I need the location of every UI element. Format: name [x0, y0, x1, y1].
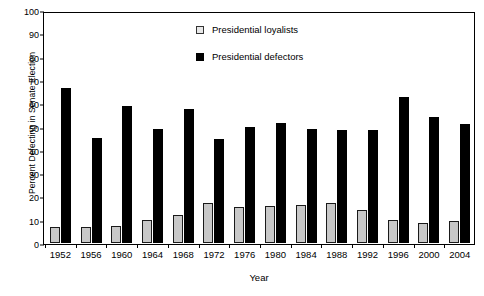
- bar-group: 1968: [168, 12, 199, 243]
- bar-loyalist: [142, 220, 152, 243]
- x-tick-mark: [291, 244, 292, 248]
- bar-group: 1996: [383, 12, 414, 243]
- x-tick-mark: [199, 244, 200, 248]
- y-tick-mark: [40, 81, 44, 82]
- y-tick-mark: [40, 12, 44, 13]
- y-tick-mark: [40, 175, 44, 176]
- bar-group: 1964: [137, 12, 168, 243]
- x-tick-mark: [321, 244, 322, 248]
- x-tick-mark: [444, 244, 445, 248]
- bar-group: 2000: [414, 12, 445, 243]
- y-tick-mark: [40, 35, 44, 36]
- x-tick-label: 1996: [388, 249, 409, 260]
- bar-group: 1992: [352, 12, 383, 243]
- bar-defector: [92, 138, 102, 243]
- y-tick-mark: [40, 245, 44, 246]
- x-tick-mark: [352, 244, 353, 248]
- y-tick-mark: [40, 198, 44, 199]
- bar-defector: [276, 123, 286, 243]
- bar-group: 1988: [321, 12, 352, 243]
- bar-defector: [368, 130, 378, 243]
- y-tick-mark: [40, 58, 44, 59]
- x-tick-mark: [414, 244, 415, 248]
- bar-defector: [460, 124, 470, 243]
- bar-group: 2004: [444, 12, 475, 243]
- x-tick-label: 1960: [111, 249, 132, 260]
- bar-loyalist: [111, 226, 121, 243]
- x-tick-label: 1968: [173, 249, 194, 260]
- bar-defector: [153, 129, 163, 243]
- y-tick-mark: [40, 151, 44, 152]
- bar-chart: Percent Defecting in Senate Election 010…: [0, 0, 484, 296]
- bar-loyalist: [326, 203, 336, 243]
- legend-label: Presidential defectors: [212, 51, 303, 62]
- bar-defector: [429, 117, 439, 243]
- bar-defector: [184, 109, 194, 243]
- y-tick-mark: [40, 105, 44, 106]
- x-tick-mark: [45, 244, 46, 248]
- bar-group: 1952: [45, 12, 76, 243]
- bar-defector: [61, 88, 71, 243]
- bar-loyalist: [357, 210, 367, 243]
- bar-group: 1960: [106, 12, 137, 243]
- bar-loyalist: [296, 205, 306, 243]
- x-tick-label: 1964: [142, 249, 163, 260]
- x-tick-mark: [137, 244, 138, 248]
- x-tick-label: 1976: [234, 249, 255, 260]
- x-tick-label: 1952: [50, 249, 71, 260]
- x-tick-mark: [76, 244, 77, 248]
- x-tick-label: 2004: [449, 249, 470, 260]
- bar-loyalist: [203, 203, 213, 243]
- loyalist-swatch: [196, 26, 204, 34]
- defector-swatch: [196, 53, 204, 61]
- bar-loyalist: [418, 223, 428, 243]
- bar-loyalist: [234, 207, 244, 243]
- x-tick-label: 1972: [203, 249, 224, 260]
- bar-loyalist: [173, 215, 183, 243]
- bar-loyalist: [449, 221, 459, 243]
- legend-item: Presidential loyalists: [196, 24, 303, 35]
- x-tick-label: 2000: [418, 249, 439, 260]
- bar-defector: [245, 127, 255, 244]
- x-tick-label: 1984: [296, 249, 317, 260]
- x-tick-label: 1988: [326, 249, 347, 260]
- x-tick-label: 1992: [357, 249, 378, 260]
- bar-loyalist: [81, 227, 91, 243]
- x-tick-mark: [229, 244, 230, 248]
- bar-group: 1956: [76, 12, 107, 243]
- bar-defector: [307, 129, 317, 243]
- bar-loyalist: [50, 227, 60, 243]
- x-axis-title: Year: [43, 272, 475, 283]
- x-tick-mark: [260, 244, 261, 248]
- x-tick-mark: [106, 244, 107, 248]
- y-tick-mark: [40, 221, 44, 222]
- x-tick-mark: [168, 244, 169, 248]
- legend-label: Presidential loyalists: [212, 24, 298, 35]
- x-tick-label: 1956: [81, 249, 102, 260]
- bar-defector: [214, 139, 224, 243]
- bar-defector: [399, 97, 409, 243]
- x-tick-mark: [383, 244, 384, 248]
- bar-defector: [337, 130, 347, 243]
- chart-legend: Presidential loyalistsPresidential defec…: [196, 24, 303, 78]
- bar-defector: [122, 106, 132, 243]
- bar-loyalist: [388, 220, 398, 243]
- legend-item: Presidential defectors: [196, 51, 303, 62]
- bar-loyalist: [265, 206, 275, 243]
- y-tick-mark: [40, 128, 44, 129]
- x-tick-label: 1980: [265, 249, 286, 260]
